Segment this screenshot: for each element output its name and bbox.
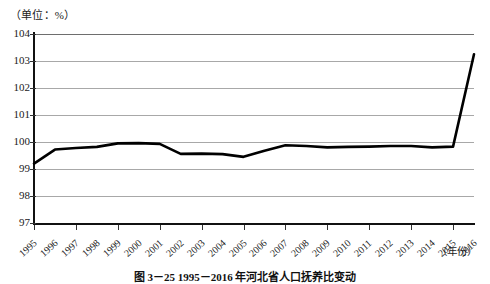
x-tick-mark [118,225,119,230]
x-tick-label: 2007 [269,238,291,259]
x-tick-label: 2012 [374,238,396,259]
x-tick-mark [369,225,370,230]
x-tick-label: 1997 [59,238,81,259]
x-tick-mark [34,225,35,230]
x-tick-label: 1996 [38,238,60,259]
x-tick-label: 2008 [290,238,312,259]
x-tick-label: 2000 [122,238,144,259]
figure-caption: 图 3－25 1995－2016 年河北省人口抚养比变动 [0,268,490,284]
x-tick-mark [160,225,161,230]
x-tick-label: 2011 [353,238,374,259]
x-tick-mark [202,225,203,230]
x-tick-label: 2001 [143,238,165,259]
x-tick-label: 1999 [101,238,123,259]
x-tick-mark [76,225,77,230]
x-tick-label: 2013 [394,238,416,259]
x-tick-mark [327,225,328,230]
x-tick-mark [244,225,245,230]
x-tick-label: 1998 [80,238,102,259]
x-tick-mark [285,225,286,230]
x-tick-mark [453,225,454,230]
x-axis-title: （年份） [437,243,477,258]
x-tick-label: 2005 [227,238,249,259]
x-tick-label: 1995 [17,238,39,259]
x-tick-mark [411,225,412,230]
x-tick-label: 2003 [185,238,207,259]
x-tick-label: 2010 [332,238,354,259]
x-tick-label: 2006 [248,238,270,259]
x-tick-label: 2014 [415,238,437,259]
x-tick-label: 2002 [164,238,186,259]
x-tick-label: 2004 [206,238,228,259]
x-tick-label: 2009 [311,238,333,259]
